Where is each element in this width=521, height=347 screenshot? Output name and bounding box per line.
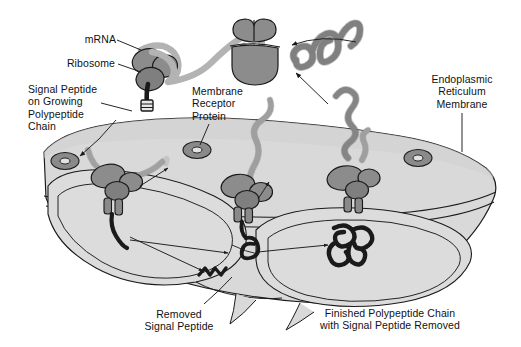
- membrane-receptor-ring-middle: [183, 142, 211, 159]
- released-folded-polypeptide: [293, 23, 360, 67]
- membrane-receptor-protein-label: Membrane Receptor Protein: [192, 85, 272, 122]
- released-chain-outline: [293, 23, 360, 67]
- ribosome-right-base-lobe: [346, 181, 369, 199]
- translocon-leg-left-a: [104, 198, 112, 214]
- nascent-chain-right-outline: [362, 130, 368, 160]
- leader-mrna: [117, 40, 141, 50]
- dissociated-ribosome-subunits: [230, 19, 280, 85]
- translocon-leg-left-b: [115, 199, 123, 215]
- translocon-leg-middle-a: [234, 207, 242, 222]
- translocon-leg-right-b: [355, 198, 363, 213]
- signal-peptide-er-diagram: mRNA Ribosome Signal Peptide on Growing …: [0, 0, 521, 347]
- translocon-leg-middle-b: [245, 208, 253, 223]
- ribosome-label: Ribosome: [30, 57, 115, 69]
- er-lip-left: [230, 294, 256, 324]
- mrna-label: mRNA: [40, 33, 116, 45]
- signal-peptide-segment: [141, 100, 153, 111]
- removed-signal-peptide-label: Removed Signal Peptide: [127, 308, 231, 333]
- translocon-leg-right-a: [344, 197, 352, 212]
- membrane-receptor-ring-left: [51, 153, 79, 170]
- large-ribosomal-subunit: [232, 45, 278, 85]
- finished-polypeptide-chain-label: Finished Polypeptide Chain with Signal P…: [302, 307, 478, 332]
- arrow-chain-release-to-lumen: [296, 73, 328, 104]
- signal-peptide-on-growing-chain-label: Signal Peptide on Growing Polypeptide Ch…: [28, 83, 128, 133]
- membrane-receptor-ring-right: [404, 150, 432, 167]
- endoplasmic-reticulum-membrane-label: Endoplasmic Reticulum Membrane: [410, 73, 514, 110]
- diagram-canvas: [0, 0, 521, 347]
